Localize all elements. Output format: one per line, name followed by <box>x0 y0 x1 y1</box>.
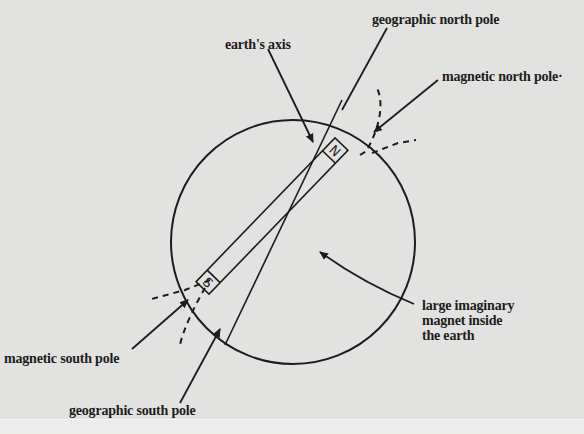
geographic-south-pointer <box>180 329 220 403</box>
earths-axis-line <box>225 100 342 345</box>
south-field-lines <box>148 280 210 345</box>
label-magnet-line1: large imaginary <box>422 298 514 313</box>
label-magnet-line2: magnet inside <box>422 313 502 328</box>
label-magnetic-south-pole: magnetic south pole <box>4 351 119 366</box>
magnetic-south-pointer <box>132 300 188 349</box>
label-geographic-south-pole: geographic south pole <box>69 403 195 418</box>
label-magnetic-north-pole: magnetic north pole· <box>442 69 562 84</box>
bar-magnet: N S <box>196 138 348 294</box>
geographic-north-pointer <box>342 28 387 110</box>
earth-circle <box>171 120 415 364</box>
magnet-pointer-curve <box>320 237 393 252</box>
magnet-pointer <box>320 252 414 304</box>
label-earths-axis: earth's axis <box>225 37 291 52</box>
label-geographic-north-pole: geographic north pole <box>372 12 499 27</box>
bottom-margin <box>0 419 584 434</box>
magnetic-north-pointer <box>374 80 438 132</box>
label-magnet-line3: the earth <box>422 328 474 343</box>
earths-axis-pointer <box>268 49 313 142</box>
